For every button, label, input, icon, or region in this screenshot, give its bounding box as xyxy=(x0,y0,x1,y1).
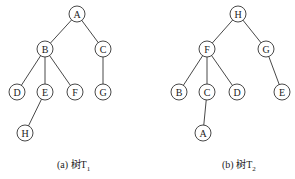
node-label: G xyxy=(99,87,106,98)
node-T2-E: E xyxy=(274,84,290,100)
node-label: B xyxy=(42,44,49,55)
edges-layer xyxy=(17,14,282,133)
node-T2-F: F xyxy=(199,41,215,57)
node-label: C xyxy=(100,44,107,55)
node-T1-H: H xyxy=(17,125,33,141)
node-T2-B: B xyxy=(171,84,187,100)
node-label: B xyxy=(176,87,183,98)
node-label: F xyxy=(72,87,78,98)
node-T2-C: C xyxy=(199,84,215,100)
node-T2-D: D xyxy=(229,84,245,100)
node-T1-E: E xyxy=(37,84,53,100)
node-T1-B: B xyxy=(37,41,53,57)
caption-subscript: 2 xyxy=(252,165,256,173)
node-label: H xyxy=(234,9,241,20)
node-label: D xyxy=(233,87,240,98)
caption-text: (b) 树T xyxy=(222,159,252,170)
node-T2-H: H xyxy=(230,6,246,22)
tree-diagram: ABCDEFGHHFGBCDEA xyxy=(0,0,295,179)
caption-subscript: 1 xyxy=(87,165,91,173)
node-label: E xyxy=(42,87,48,98)
node-label: A xyxy=(73,9,81,20)
node-T1-G: G xyxy=(95,84,111,100)
caption-tree-t1: (a) 树T1 xyxy=(57,156,90,173)
node-T1-D: D xyxy=(9,84,25,100)
node-T2-A: A xyxy=(195,125,211,141)
node-label: H xyxy=(21,128,28,139)
node-label: G xyxy=(262,44,269,55)
node-T1-C: C xyxy=(95,41,111,57)
node-label: F xyxy=(204,44,210,55)
node-label: C xyxy=(204,87,211,98)
node-label: D xyxy=(13,87,20,98)
caption-tree-t2: (b) 树T2 xyxy=(222,156,256,173)
node-T1-A: A xyxy=(69,6,85,22)
caption-text: (a) 树T xyxy=(57,159,87,170)
node-label: A xyxy=(199,128,207,139)
node-label: E xyxy=(279,87,285,98)
node-T2-G: G xyxy=(258,41,274,57)
node-T1-F: F xyxy=(67,84,83,100)
